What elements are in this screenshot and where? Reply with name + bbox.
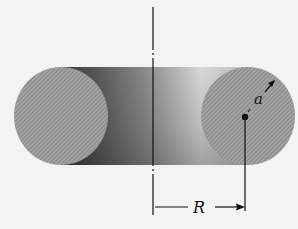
arrow-head-icon [236,204,245,211]
left-cross-section [14,67,108,165]
torus-diagram: a R [0,0,298,229]
major-radius-label: R [192,198,205,217]
tube-radius-label: a [254,90,263,108]
center-dot [242,114,248,120]
